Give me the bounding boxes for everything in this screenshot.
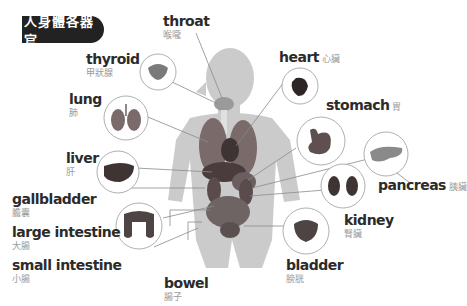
kidney-circle bbox=[321, 164, 365, 208]
label-stomach: stomach 胃 bbox=[326, 98, 401, 112]
label-kidney: kidney 腎臟 bbox=[344, 213, 394, 239]
label-thyroid: thyroid 甲狀腺 bbox=[86, 52, 140, 78]
label-pancreas: pancreas 胰臟 bbox=[378, 178, 467, 192]
label-gallbladder: gallbladder 膽囊 bbox=[12, 192, 96, 218]
label-liver: liver 肝 bbox=[66, 151, 99, 177]
lung-circle bbox=[104, 96, 148, 140]
intestine-circle bbox=[116, 203, 162, 249]
label-bowel: bowel 腸子 bbox=[164, 276, 208, 302]
label-heart: heart 心臟 bbox=[279, 50, 340, 64]
label-lung: lung 肺 bbox=[69, 92, 102, 118]
label-large-intestine: large intestine 大腸 bbox=[12, 225, 120, 251]
label-small-intestine: small intestine 小腸 bbox=[12, 258, 122, 284]
label-throat: throat 喉嚨 bbox=[163, 14, 209, 40]
label-bladder: bladder 膀胱 bbox=[286, 258, 343, 284]
